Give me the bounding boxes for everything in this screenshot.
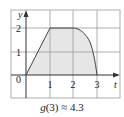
- x-axis-arrow-icon: [113, 73, 120, 78]
- caption-value: (3) ≈ 4.3: [46, 101, 84, 113]
- y-tick-1: 1: [16, 47, 21, 58]
- caption: g(3) ≈ 4.3: [0, 101, 124, 113]
- x-tick-3: 3: [95, 79, 100, 90]
- origin-label: 0: [16, 74, 21, 85]
- x-axis-label: t: [114, 79, 117, 90]
- x-tick-1: 1: [48, 79, 53, 90]
- area-graph: y t 0 1 2 3 2 1: [0, 0, 124, 100]
- y-axis-arrow-icon: [24, 10, 29, 17]
- y-tick-2: 2: [16, 23, 21, 34]
- x-tick-2: 2: [71, 79, 76, 90]
- shaded-area: [26, 28, 97, 75]
- y-axis-label: y: [17, 9, 23, 20]
